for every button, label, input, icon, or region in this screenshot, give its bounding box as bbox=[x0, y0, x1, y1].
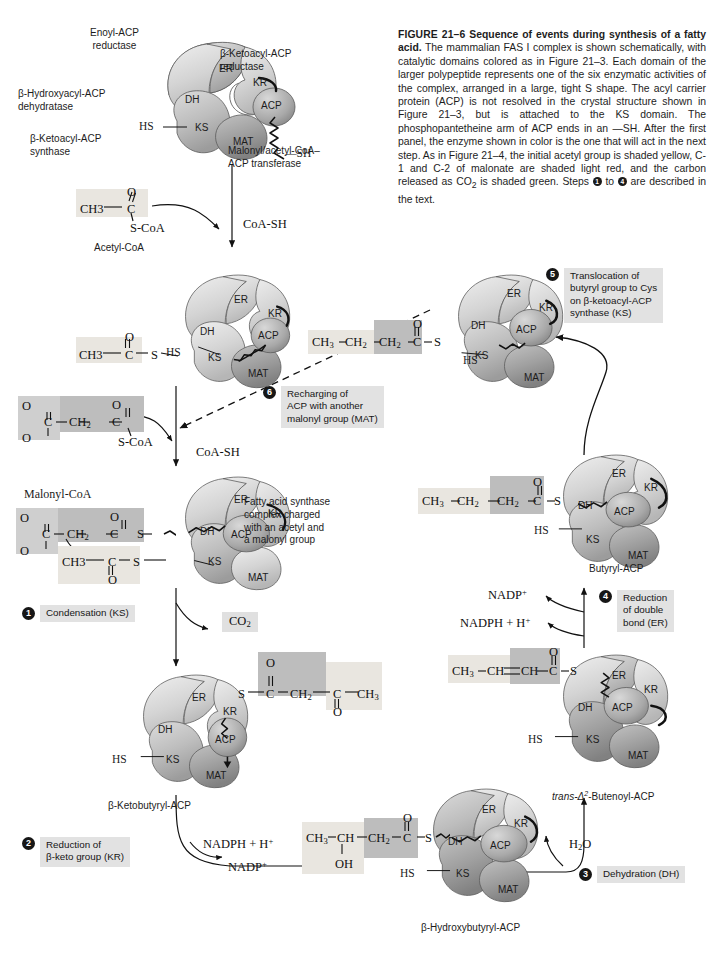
butyryl-ks-bonds bbox=[308, 316, 448, 366]
domain-label-mat-6: MAT bbox=[628, 750, 648, 761]
figure-body-3: to bbox=[602, 176, 618, 187]
step-5-text: Translocation of butyryl group to Cys on… bbox=[564, 268, 663, 323]
domain-label-dh-5: DH bbox=[448, 836, 462, 847]
ketoacyl-synthase-line2: synthase bbox=[30, 146, 101, 159]
domain-label-ks-3: KS bbox=[208, 556, 221, 567]
acetyl-coa-bonds bbox=[76, 180, 166, 235]
molecule-name-hydroxybutyryl-acp: β-Hydroxybutyryl-ACP bbox=[421, 922, 520, 933]
cofactor-nadp-2: NADP+ bbox=[488, 588, 527, 602]
hydroxybutyryl-bonds bbox=[300, 810, 450, 870]
step-4-line2: of double bbox=[623, 604, 668, 616]
domain-label-kr-2: KR bbox=[268, 308, 282, 319]
cofactor-nadp-1: NADP+ bbox=[228, 860, 267, 874]
step-4-number: 4 bbox=[599, 590, 612, 603]
butenoyl-bonds bbox=[448, 644, 588, 694]
domain-label-acp-8: ACP bbox=[516, 324, 537, 335]
step-5-line1: Translocation of bbox=[570, 270, 657, 282]
step-1-text: Condensation (KS) bbox=[40, 605, 135, 622]
mat-transferase-line2: ACP transferase bbox=[228, 158, 320, 171]
step-6-line1: Recharging of bbox=[287, 388, 378, 400]
charged-acetyl-bonds bbox=[58, 548, 178, 590]
step-2: 2 Reduction of β-keto group (KR) bbox=[22, 837, 130, 867]
step-2-line2: β-keto group (KR) bbox=[46, 851, 124, 863]
cofactor-coash-1: CoA-SH bbox=[243, 218, 287, 231]
domain-label-mat-8: MAT bbox=[524, 372, 544, 383]
domain-label-er-6: ER bbox=[612, 670, 626, 681]
label-ketoacyl-acp-reductase: β-Ketoacyl-ACP reductase bbox=[220, 48, 291, 74]
enoyl-reductase-line2: reductase bbox=[90, 40, 139, 53]
domain-label-dh-8: DH bbox=[471, 320, 485, 331]
molecule-name-ketobutyryl-acp: β-Ketobutyryl-ACP bbox=[108, 800, 191, 811]
step-6: 6 Recharging of ACP with another malonyl… bbox=[263, 386, 384, 428]
hydroxyacyl-dehydratase-line1: β-Hydroxyacyl-ACP bbox=[18, 88, 105, 101]
domain-label-kr-7: KR bbox=[644, 482, 658, 493]
step-5-line4: synthase (KS) bbox=[570, 307, 657, 319]
step-5: 5 Translocation of butyryl group to Cys … bbox=[546, 268, 663, 323]
domain-label-er-4: ER bbox=[192, 692, 206, 703]
hydroxyacyl-dehydratase-line2: dehydratase bbox=[18, 101, 105, 114]
acetyl-ks-bonds bbox=[76, 326, 186, 366]
label-enoyl-acp-reductase: Enoyl-ACP reductase bbox=[90, 27, 139, 53]
domain-label-er-7: ER bbox=[612, 468, 626, 479]
domain-label-hs-4: HS bbox=[112, 753, 127, 765]
domain-label-hs-6: HS bbox=[528, 733, 543, 745]
domain-label-ks-5: KS bbox=[456, 868, 469, 879]
label-hydroxyacyl-acp-dehydratase: β-Hydroxyacyl-ACP dehydratase bbox=[18, 88, 105, 114]
ketoacyl-reductase-line1: β-Ketoacyl-ACP bbox=[220, 48, 291, 61]
domain-label-acp-2: ACP bbox=[258, 330, 279, 341]
molecule-name-malonyl-coa: Malonyl-CoA bbox=[24, 487, 91, 502]
domain-label-hs: HS bbox=[139, 120, 154, 132]
domain-label-dh-6: DH bbox=[578, 702, 592, 713]
domain-label-acp-7: ACP bbox=[614, 506, 635, 517]
domain-label-dh: DH bbox=[185, 94, 199, 105]
figure-body-1: The mammalian FAS I complex is shown sch… bbox=[398, 42, 706, 187]
molecule-name-butenoyl-acp: trans-Δ2-Butenoyl-ACP bbox=[552, 790, 654, 802]
domain-label-er-2: ER bbox=[234, 294, 248, 305]
domain-label-acp-4: ACP bbox=[215, 734, 236, 745]
step-4-line3: bond (ER) bbox=[623, 617, 668, 629]
step-6-line3: malonyl group (MAT) bbox=[287, 413, 378, 425]
butyryl-bonds bbox=[418, 474, 568, 524]
cofactor-nadph-h-1: NADPH + H+ bbox=[203, 837, 273, 851]
step-2-text: Reduction of β-keto group (KR) bbox=[40, 837, 130, 867]
step-4: 4 Reduction of double bond (ER) bbox=[599, 590, 674, 632]
domain-label-acp-6: ACP bbox=[612, 702, 633, 713]
domain-label-kr-5: KR bbox=[514, 818, 528, 829]
domain-label-ks-6: KS bbox=[586, 734, 599, 745]
figure-body-2: is shaded green. Steps bbox=[477, 176, 593, 187]
domain-label-ks-4: KS bbox=[166, 754, 179, 765]
ketobutyryl-bonds bbox=[234, 650, 384, 720]
domain-label-mat-2: MAT bbox=[248, 368, 268, 379]
domain-label-ks: KS bbox=[195, 122, 208, 133]
side-note-line1: Fatty acid synthase bbox=[244, 496, 330, 509]
mat-transferase-line1: Malonyl/acetyl-CoA– bbox=[228, 145, 320, 158]
domain-label-hs-7: HS bbox=[534, 524, 549, 536]
domain-label-kr-6: KR bbox=[644, 684, 658, 695]
figure-caption: FIGURE 21–6 Sequence of events during sy… bbox=[398, 28, 706, 206]
side-note-line3: with an acetyl and bbox=[244, 522, 330, 535]
cofactor-nadph-h-2: NADPH + H+ bbox=[460, 616, 530, 630]
label-mat-transferase: Malonyl/acetyl-CoA– ACP transferase bbox=[228, 145, 320, 171]
caption-step-to: 4 bbox=[618, 177, 627, 186]
caption-step-from: 1 bbox=[593, 177, 602, 186]
molecule-name-butyryl-acp: Butyryl-ACP bbox=[589, 563, 643, 574]
step-3-number: 3 bbox=[579, 868, 592, 881]
domain-label-ks-7: KS bbox=[586, 534, 599, 545]
byproduct-h2o: H2O bbox=[569, 838, 591, 852]
figure-label: FIGURE 21–6 bbox=[398, 29, 465, 40]
step-3-text: Dehydration (DH) bbox=[597, 866, 685, 883]
domain-label-dh-2: DH bbox=[200, 326, 214, 337]
step-5-number: 5 bbox=[546, 268, 559, 281]
step-1: 1 Condensation (KS) bbox=[22, 605, 135, 622]
domain-label-hs-8: HS bbox=[463, 354, 478, 366]
domain-label-dh-7: DH bbox=[578, 500, 592, 511]
fas-complex-panel-7: DH ER KR KS MAT ACP HS bbox=[548, 448, 715, 578]
step-6-line2: ACP with another bbox=[287, 400, 378, 412]
step-4-line1: Reduction bbox=[623, 592, 668, 604]
ketoacyl-reductase-line2: reductase bbox=[220, 61, 291, 74]
step-4-text: Reduction of double bond (ER) bbox=[617, 590, 674, 632]
enoyl-reductase-line1: Enoyl-ACP bbox=[90, 27, 139, 40]
step-2-line1: Reduction of bbox=[46, 839, 124, 851]
domain-label-kr: KR bbox=[253, 77, 267, 88]
step-5-line2: butyryl group to Cys bbox=[570, 282, 657, 294]
